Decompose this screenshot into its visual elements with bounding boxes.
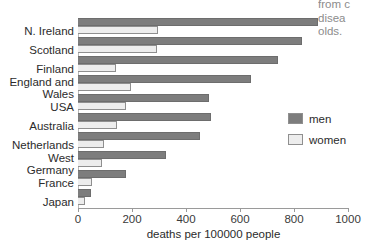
chart-legend: men women [288, 110, 346, 152]
bar-women [78, 159, 102, 167]
category-label: Japan [0, 197, 74, 209]
legend-label-women: women [309, 134, 346, 146]
bar-men [78, 113, 211, 121]
x-axis-tick [240, 208, 241, 212]
category-label: Finland [0, 64, 74, 76]
bar-men [78, 18, 318, 26]
bar-women [78, 26, 158, 34]
annotation-line-1: from c [318, 0, 367, 12]
category-label: USA [0, 102, 74, 114]
x-axis-title: deaths per 100000 people [78, 228, 349, 240]
bar-men [78, 132, 200, 140]
category-label: Netherlands [0, 140, 74, 152]
bar-men [78, 37, 302, 45]
category-axis-labels: N. IrelandScotlandFinlandEngland and Wal… [0, 18, 74, 208]
bar-women [78, 178, 92, 186]
bar-women [78, 83, 131, 91]
category-label: England and Wales [0, 77, 74, 100]
x-axis-tick-label: 1000 [335, 213, 361, 225]
category-label: Australia [0, 121, 74, 133]
legend-item-women: women [288, 131, 346, 148]
bar-women [78, 121, 117, 129]
x-axis-tick-label: 800 [284, 213, 303, 225]
bar-men [78, 151, 166, 159]
bar-women [78, 140, 104, 148]
x-axis-line [78, 208, 349, 209]
legend-label-men: men [309, 113, 331, 125]
bar-men [78, 170, 126, 178]
bar-women [78, 64, 116, 72]
bar-men [78, 56, 278, 64]
bar-men [78, 94, 209, 102]
x-axis-tick [186, 208, 187, 212]
x-axis-tick [78, 208, 79, 212]
x-axis-tick-label: 400 [176, 213, 195, 225]
x-axis-tick [294, 208, 295, 212]
category-label: Scotland [0, 45, 74, 57]
bar-women [78, 45, 157, 53]
bar-men [78, 189, 91, 197]
x-axis-tick [132, 208, 133, 212]
bar-women [78, 197, 85, 205]
legend-item-men: men [288, 110, 346, 127]
x-axis-tick-label: 0 [75, 213, 81, 225]
bar-men [78, 75, 251, 83]
x-axis-tick-label: 200 [122, 213, 141, 225]
bar-women [78, 102, 126, 110]
legend-swatch-men [288, 113, 303, 124]
category-label: N. Ireland [0, 26, 74, 38]
category-label: West Germany [0, 153, 74, 176]
category-label: France [0, 178, 74, 190]
legend-swatch-women [288, 134, 303, 145]
x-axis-tick [348, 208, 349, 212]
chart-page: from c disea olds. N. IrelandScotlandFin… [0, 0, 367, 246]
x-axis-tick-label: 600 [230, 213, 249, 225]
